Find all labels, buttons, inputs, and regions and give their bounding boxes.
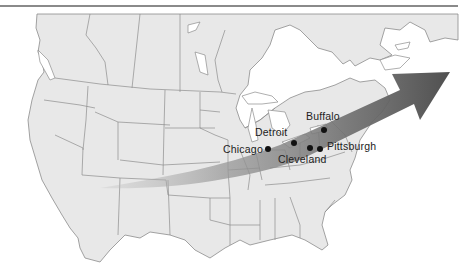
- city-label-detroit: Detroit: [255, 127, 287, 138]
- city-dot-buffalo: [321, 127, 327, 133]
- city-dot-chicago: [265, 146, 271, 152]
- city-label-buffalo: Buffalo: [306, 111, 340, 122]
- north-america-map: [0, 0, 476, 273]
- city-label-pittsburgh: Pittsburgh: [327, 141, 376, 152]
- city-dot-cleveland: [307, 145, 313, 151]
- city-label-chicago: Chicago: [223, 144, 263, 155]
- city-dot-detroit: [291, 140, 297, 146]
- city-label-cleveland: Cleveland: [278, 154, 327, 165]
- city-dot-pittsburgh: [317, 146, 323, 152]
